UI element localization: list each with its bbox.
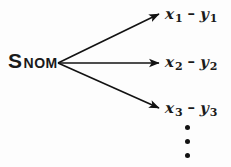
branch-label-2-right-term: y 2: [200, 55, 217, 70]
diagram-canvas: S NOM x 1 – y 1 x 2 – y 2 x 3 – y 3: [0, 0, 231, 167]
branch-label-2-operator: –: [188, 54, 196, 69]
branch-label-1-right-term: y 1: [200, 7, 217, 22]
branch-label-3-operator: –: [188, 100, 196, 115]
branch-label-3-left-index: 3: [175, 107, 183, 118]
branch-arrow-3: [58, 63, 159, 108]
branch-label-3-left-term: x 3: [165, 101, 183, 116]
branch-arrow-1: [58, 14, 159, 63]
ellipsis-dot: [185, 139, 190, 144]
branch-label-1-right-variable: y: [200, 7, 210, 22]
ellipsis-dot: [185, 125, 190, 130]
branch-label-2-right-variable: y: [200, 55, 210, 70]
branch-label-3-right-variable: y: [200, 101, 210, 116]
branch-label-1-left-index: 1: [175, 13, 183, 24]
branch-label-2-left-index: 2: [175, 61, 183, 72]
branch-label-1: x 1 – y 1: [165, 7, 217, 22]
ellipsis-dot: [185, 153, 190, 158]
source-node-s-nom: S NOM: [8, 50, 58, 71]
branch-label-3-left-variable: x: [164, 101, 174, 116]
source-node-subscript: NOM: [24, 56, 58, 70]
branch-label-2-right-index: 2: [210, 61, 218, 72]
branch-label-1-right-index: 1: [210, 13, 218, 24]
source-node-main-letter: S: [8, 50, 23, 71]
branch-label-3-right-index: 3: [210, 107, 218, 118]
branch-label-2-left-variable: x: [164, 55, 174, 70]
vertical-ellipsis-icon: [185, 125, 190, 158]
branch-label-1-left-variable: x: [164, 7, 174, 22]
arrow-layer: [0, 0, 231, 167]
branch-label-2-left-term: x 2: [165, 55, 183, 70]
branch-label-2: x 2 – y 2: [165, 55, 217, 70]
branch-label-3-right-term: y 3: [200, 101, 217, 116]
branch-label-3: x 3 – y 3: [165, 101, 217, 116]
branch-label-1-operator: –: [188, 6, 196, 21]
branch-label-1-left-term: x 1: [165, 7, 183, 22]
